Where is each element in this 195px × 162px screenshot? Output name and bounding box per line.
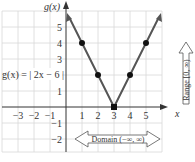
x-axis-label: x [174,108,180,119]
svg-text:4: 4 [128,110,133,121]
y-tick-labels: 5 4 3 1 −1 −2 [51,22,62,145]
domain-label: Domain (−∞, ∞) [91,135,144,144]
svg-text:5: 5 [57,22,62,33]
range-annotation: Range [0, ∞) [179,42,193,104]
function-graph: g(x) x −3 −2 −1 1 2 3 4 5 5 4 3 1 −1 −2 … [0,0,195,162]
point-1-4 [79,40,85,46]
svg-text:1: 1 [57,86,62,97]
point-4-2 [127,72,133,78]
svg-text:−1: −1 [51,118,62,129]
svg-text:1: 1 [80,110,85,121]
point-5-4 [143,40,149,46]
grid [2,11,162,152]
range-label: Range [0, ∞) [182,59,191,101]
x-tick-labels: −3 −2 −1 1 2 3 4 5 [13,110,149,121]
domain-annotation: Domain (−∞, ∞) [75,131,160,147]
svg-text:−2: −2 [29,110,40,121]
function-label: g(x) = | 2x − 6 | [2,69,64,81]
svg-text:3: 3 [57,54,62,65]
svg-text:−3: −3 [13,110,24,121]
point-2-2 [95,72,101,78]
y-axis-arrow-icon [63,1,69,9]
svg-text:4: 4 [57,38,62,49]
svg-text:5: 5 [144,110,149,121]
svg-text:2: 2 [96,110,101,121]
svg-text:−2: −2 [51,134,62,145]
svg-text:3: 3 [112,110,117,121]
x-axis-arrow-icon [160,104,168,110]
y-axis-label: g(x) [44,1,61,13]
vertex-point-3-0 [111,104,117,110]
